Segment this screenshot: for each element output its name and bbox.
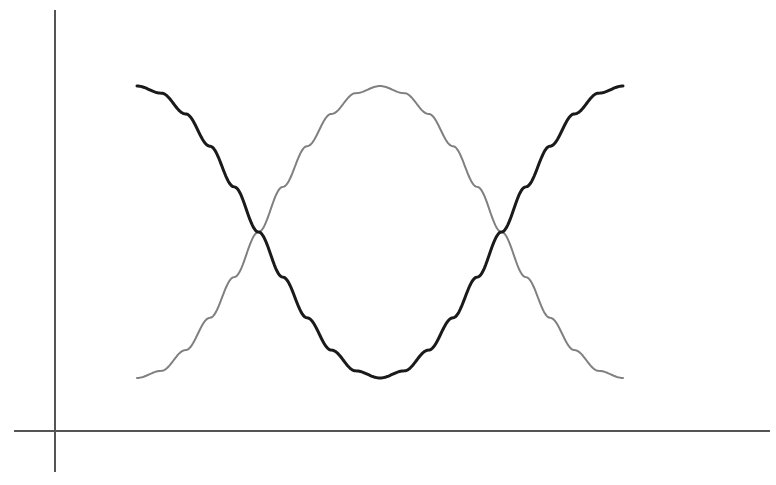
plot-canvas xyxy=(0,0,776,485)
plot-background xyxy=(0,0,776,485)
plot-svg xyxy=(0,0,776,485)
